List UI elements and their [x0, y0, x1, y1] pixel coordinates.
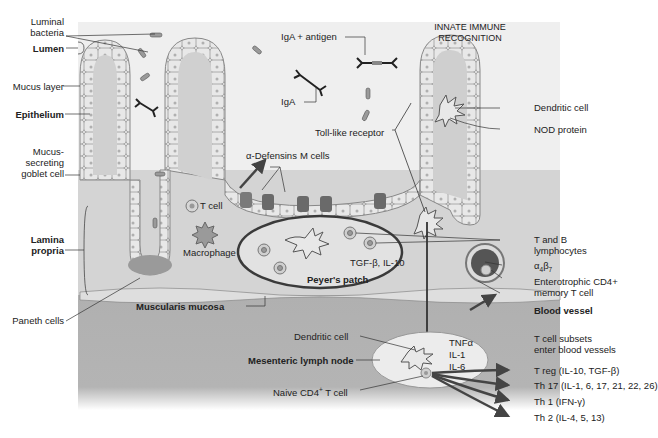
label-treg: T reg (IL-10, TGF-β) [534, 365, 619, 376]
bacterium [366, 88, 370, 99]
label-iga-antigen: IgA + antigen [281, 31, 337, 42]
label-naive-cd4-t-cell: Naive CD4+ T cell [273, 384, 348, 398]
label-t-b-lymphocytes: T and B lymphocytes [534, 234, 587, 256]
villus-middle [165, 38, 225, 180]
label-goblet-cell: Mucus- secreting goblet cell [2, 146, 64, 179]
label-th2: Th 2 (IL-4, 5, 13) [534, 412, 605, 423]
label-peyers-patch: Peyer's patch [307, 274, 368, 285]
villus-left [80, 40, 130, 180]
label-macrophage: Macrophage [183, 247, 236, 258]
label-luminal-bacteria: Luminal bacteria [2, 16, 64, 38]
bacterium [150, 33, 162, 37]
label-th1: Th 1 (IFN-γ) [534, 396, 585, 407]
label-cytokine-tnfa: TNFα [449, 337, 473, 348]
label-dendritic-cell-node: Dendritic cell [294, 331, 348, 342]
t-cell-icon [186, 200, 198, 212]
label-paneth-cells: Paneth cells [2, 315, 64, 326]
label-blood-vessel: Blood vessel [534, 305, 593, 316]
label-nod-protein: NOD protein [534, 124, 587, 135]
label-alpha-defensins: α-Defensins [246, 150, 297, 161]
label-toll-like-receptor: Toll-like receptor [315, 127, 384, 138]
naive-cd4-t-cell-icon [421, 368, 431, 378]
label-muscularis-mucosa: Muscularis mucosa [136, 301, 224, 312]
label-t-cell-subsets-enter: T cell subsets enter blood vessels [534, 333, 616, 355]
villus-right [420, 35, 480, 225]
label-alpha4-beta7: α4β7 [534, 260, 552, 275]
bacterium [153, 218, 157, 228]
label-mucus-layer: Mucus layer [2, 81, 64, 92]
label-t-cell: T cell [200, 200, 223, 211]
blood-vessel-icon [466, 244, 504, 282]
bacterium [155, 172, 165, 176]
label-iga: IgA [281, 96, 295, 107]
paneth-cells-cluster [128, 255, 172, 275]
label-tgf-il10: TGF-β, IL-10 [350, 257, 405, 268]
label-epithelium: Epithelium [2, 109, 64, 120]
label-enterotrophic-cd4: Enterotrophic CD4+ memory T cell [534, 276, 618, 298]
label-dendritic-cell: Dendritic cell [534, 102, 588, 113]
label-cytokine-il6: IL-6 [449, 361, 465, 372]
label-m-cells: M cells [300, 150, 330, 161]
label-innate-immune-recognition: INNATE IMMUNE RECOGNITION [420, 22, 520, 44]
label-th17: Th 17 (IL-1, 6, 17, 21, 22, 26) [534, 380, 658, 391]
label-mesenteric-lymph-node: Mesenteric lymph node [248, 355, 354, 366]
label-lamina-propria: Lamina propria [2, 234, 64, 256]
label-lumen: Lumen [2, 43, 64, 54]
macrophage-icon [192, 222, 218, 248]
label-cytokine-il1: IL-1 [449, 349, 465, 360]
